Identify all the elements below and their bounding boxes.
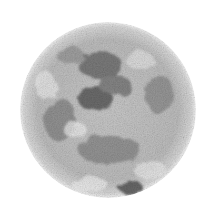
moon-disk [20, 22, 196, 198]
mare-upper-center [78, 51, 122, 79]
highland-1 [63, 122, 87, 138]
crater-dark-bottom [118, 180, 142, 194]
mare-top-left [56, 47, 84, 63]
mare-center-2 [99, 75, 131, 95]
highland-2 [126, 50, 154, 70]
highland-3 [35, 71, 55, 99]
highland-4 [134, 160, 166, 180]
moon-image [0, 0, 214, 221]
mare-right [146, 75, 174, 115]
mare-lower [78, 136, 142, 164]
highland-5 [72, 177, 108, 193]
